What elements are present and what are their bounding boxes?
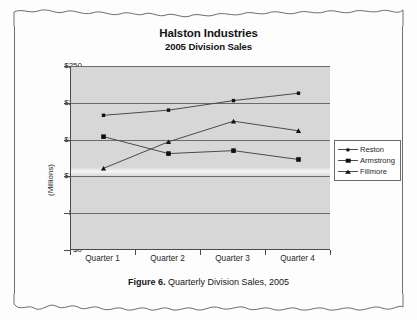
legend-item-fillmore: Fillmore xyxy=(338,166,395,177)
legend-label-reston: Reston xyxy=(358,145,384,154)
series-armstrong xyxy=(101,134,301,161)
series-reston xyxy=(102,92,300,117)
data-point-fillmore-1 xyxy=(101,166,106,171)
data-point-reston-3 xyxy=(232,99,235,102)
data-point-armstrong-2 xyxy=(166,151,171,156)
legend-marker-square-large-icon xyxy=(338,155,358,166)
figure-caption-text: Quarterly Division Sales, 2005 xyxy=(168,277,289,287)
legend-marker-triangle-icon xyxy=(338,166,358,177)
scanned-page: Halston Industries 2005 Division Sales (… xyxy=(0,0,417,320)
legend-item-reston: Reston xyxy=(338,144,395,155)
legend-item-armstrong: Armstrong xyxy=(338,155,395,166)
data-point-reston-2 xyxy=(167,108,170,111)
figure-caption: Figure 6. Quarterly Division Sales, 2005 xyxy=(0,277,417,287)
data-point-reston-4 xyxy=(297,92,300,95)
series-line-reston xyxy=(104,93,299,115)
plot-area xyxy=(70,66,330,250)
x-tick-label-quarter-3: Quarter 3 xyxy=(198,254,268,264)
x-tick-label-quarter-1: Quarter 1 xyxy=(68,254,138,264)
series-lines xyxy=(71,66,330,250)
line-chart: (Millions) $250 $200 $150 $100 $50 $0 xyxy=(0,0,417,320)
legend-marker-square-small-icon xyxy=(338,144,358,155)
series-fillmore xyxy=(101,119,301,171)
figure-caption-label: Figure 6. xyxy=(128,277,166,287)
data-point-armstrong-3 xyxy=(231,148,236,153)
legend-label-armstrong: Armstrong xyxy=(358,156,395,165)
data-point-armstrong-4 xyxy=(296,157,301,162)
x-tick-label-quarter-4: Quarter 4 xyxy=(263,254,333,264)
chart-legend: Reston Armstrong Fillmore xyxy=(334,140,401,181)
data-point-reston-1 xyxy=(102,114,105,117)
data-point-armstrong-1 xyxy=(101,134,106,139)
legend-label-fillmore: Fillmore xyxy=(358,167,387,176)
x-tick-label-quarter-2: Quarter 2 xyxy=(133,254,203,264)
